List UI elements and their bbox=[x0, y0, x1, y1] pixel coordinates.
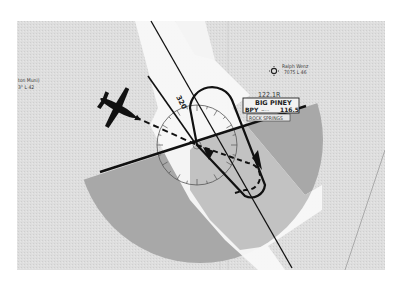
holding-pattern-diagram: 320 122.1R BIG PINEY BPY −··· 116.5 ROCK… bbox=[0, 0, 403, 284]
airport-name: ton Muni) bbox=[18, 77, 40, 83]
vor-frequency: 116.5 bbox=[280, 106, 299, 113]
fss-name: ROCK SPRINGS bbox=[249, 115, 283, 121]
vor-identifier: BPY bbox=[245, 106, 259, 113]
airport-info: 7075 L 46 bbox=[284, 69, 307, 75]
vor-morse: −··· bbox=[261, 107, 269, 113]
airport-info: 3° L 42 bbox=[18, 84, 34, 90]
